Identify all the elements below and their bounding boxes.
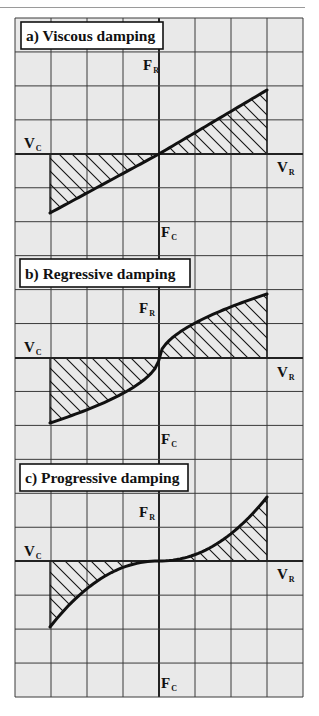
panel-title: a) Viscous damping	[26, 27, 155, 45]
panel-title: b) Regressive damping	[25, 265, 176, 283]
panel-title: c) Progressive damping	[25, 469, 180, 487]
damping-characteristics-diagram: FRFCVCVRa) Viscous dampingFRFCVCVRb) Reg…	[0, 0, 319, 716]
